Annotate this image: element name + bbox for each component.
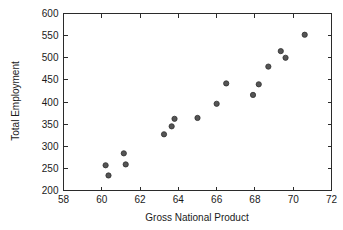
y-axis-tick-labels: 200250300350400450500550600: [42, 8, 59, 196]
data-point: [278, 48, 283, 53]
y-tick-label-600: 600: [42, 8, 59, 19]
y-tick-label-500: 500: [42, 52, 59, 63]
x-tick-label-64: 64: [173, 194, 185, 205]
y-tick-label-250: 250: [42, 163, 59, 174]
y-tick-label-200: 200: [42, 185, 59, 196]
x-tick-label-66: 66: [211, 194, 223, 205]
x-tick-label-58: 58: [58, 194, 70, 205]
data-point: [195, 115, 200, 120]
data-point: [121, 151, 126, 156]
data-point: [302, 32, 307, 37]
data-point: [283, 55, 288, 60]
data-point: [169, 124, 174, 129]
x-axis-title: Gross National Product: [145, 212, 249, 223]
data-point: [161, 132, 166, 137]
data-point: [214, 101, 219, 106]
y-tick-label-450: 450: [42, 74, 59, 85]
x-tick-label-72: 72: [326, 194, 338, 205]
x-tick-label-70: 70: [288, 194, 300, 205]
data-point: [256, 82, 261, 87]
scatter-plot-figure: 5860626466687072 20025030035040045050055…: [0, 0, 343, 230]
y-axis-title: Total Employment: [10, 61, 21, 141]
data-point: [250, 92, 255, 97]
data-point: [172, 116, 177, 121]
x-tick-label-60: 60: [96, 194, 108, 205]
x-tick-label-62: 62: [135, 194, 147, 205]
data-point: [266, 64, 271, 69]
y-tick-label-400: 400: [42, 97, 59, 108]
y-tick-label-300: 300: [42, 141, 59, 152]
data-point: [123, 162, 128, 167]
x-tick-label-68: 68: [249, 194, 261, 205]
y-tick-label-550: 550: [42, 30, 59, 41]
data-point: [103, 163, 108, 168]
y-tick-label-350: 350: [42, 119, 59, 130]
data-point: [224, 81, 229, 86]
data-point: [106, 173, 111, 178]
chart-canvas: 5860626466687072 20025030035040045050055…: [0, 0, 343, 230]
